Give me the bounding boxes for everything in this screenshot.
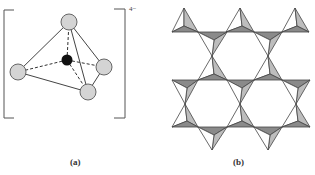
tetra-up: [198, 56, 227, 80]
figure: 4− (a) (b): [0, 0, 315, 175]
tetra-down: [254, 32, 282, 56]
caption-b: (b): [233, 157, 244, 167]
tetra-down: [198, 127, 227, 150]
tetra-up: [282, 104, 310, 127]
tetra-up: [227, 104, 254, 127]
tetra-down: [198, 32, 227, 56]
oxygen-atom-bottom: [80, 84, 96, 100]
right-bracket: [114, 9, 125, 118]
panel-a-tetrahedron: [4, 9, 125, 118]
panel-b-sheet: [172, 8, 310, 150]
tetra-up: [254, 56, 282, 80]
tetra-down: [172, 80, 198, 104]
tetra-down: [227, 80, 254, 104]
tetra-up: [172, 8, 198, 32]
tetra-up: [282, 8, 309, 32]
oxygen-atom-left: [10, 64, 26, 80]
silicon-atom-center: [62, 55, 73, 66]
charge-label: 4−: [129, 5, 136, 13]
dashed-bonds: [18, 22, 104, 92]
solid-edges: [18, 22, 104, 92]
caption-a: (a): [70, 157, 81, 167]
tetra-down: [282, 80, 310, 104]
oxygen-atom-right: [96, 59, 112, 75]
left-bracket: [4, 10, 14, 118]
oxygen-atom-top: [61, 14, 77, 30]
tetra-down: [254, 127, 282, 150]
tetra-up: [226, 8, 254, 32]
tetra-up: [172, 104, 198, 127]
